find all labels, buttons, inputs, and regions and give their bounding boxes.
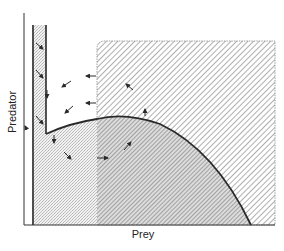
- x-axis-label: Prey: [132, 228, 155, 240]
- left-stippled-strip: [32, 25, 46, 225]
- arrow-icon: [25, 126, 27, 130]
- predator-prey-phase-diagram: Prey Predator: [0, 0, 284, 251]
- arrow-icon: [65, 106, 73, 113]
- arrow-icon: [62, 81, 71, 87]
- y-axis-label: Predator: [6, 91, 18, 134]
- lower-stippled-region: [46, 119, 97, 225]
